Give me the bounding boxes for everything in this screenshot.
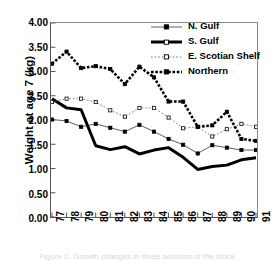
x-tick-label: 77 (55, 200, 66, 222)
data-point (51, 62, 54, 65)
data-point (167, 116, 170, 119)
legend-item-e-scotian-shelf: E. Scotian Shelf (150, 48, 260, 62)
data-point (80, 67, 83, 70)
x-tick-label: 89 (232, 200, 243, 222)
data-point (152, 130, 155, 133)
data-point (94, 100, 97, 103)
data-point (182, 100, 185, 103)
data-point (182, 143, 185, 146)
y-axis-title: Weight at age 7 (kg) (23, 15, 35, 205)
x-tick-label: 81 (114, 200, 125, 222)
x-tick-label: 87 (202, 200, 213, 222)
x-tick-label: 82 (129, 200, 140, 222)
legend-key-icon (150, 64, 183, 76)
data-point (51, 100, 54, 103)
data-point (65, 97, 68, 100)
data-point (51, 118, 54, 121)
data-point (211, 124, 214, 127)
data-point (80, 97, 83, 100)
data-point (109, 109, 112, 112)
data-point (254, 125, 257, 128)
data-point (182, 127, 185, 130)
data-point (65, 50, 68, 53)
data-point (254, 148, 257, 151)
data-point (167, 137, 170, 140)
data-point (225, 110, 228, 113)
x-tick-label: 78 (70, 200, 81, 222)
data-point (225, 128, 228, 131)
data-point (152, 106, 155, 109)
legend-label: N. Gulf (188, 20, 219, 31)
data-point (138, 65, 141, 68)
data-point (240, 122, 243, 125)
x-tick-label: 84 (158, 200, 169, 222)
figure-caption: Figure 2. Growth changes in three sectio… (0, 252, 274, 261)
legend-item-northern: Northern (150, 63, 260, 77)
data-point (94, 122, 97, 125)
y-tick-label: 0.00 (0, 213, 48, 224)
data-point (225, 146, 228, 149)
x-tick-label: 90 (246, 200, 257, 222)
legend-key-icon (150, 19, 183, 31)
data-point (65, 119, 68, 122)
legend-label: Northern (188, 65, 228, 76)
data-point (123, 130, 126, 133)
legend-label: E. Scotian Shelf (188, 50, 260, 61)
data-point (109, 126, 112, 129)
data-point (196, 152, 199, 155)
data-point (138, 106, 141, 109)
data-point (240, 137, 243, 140)
data-point (167, 100, 170, 103)
x-tick-label: 80 (99, 200, 110, 222)
data-point (138, 123, 141, 126)
legend-item-n-gulf: N. Gulf (150, 18, 260, 32)
legend-item-s-gulf: S. Gulf (150, 33, 260, 47)
data-point (240, 148, 243, 151)
x-tick-label: 79 (84, 200, 95, 222)
x-tick-label: 85 (173, 200, 184, 222)
x-tick-label: 91 (261, 200, 272, 222)
data-point (196, 125, 199, 128)
data-point (211, 135, 214, 138)
data-point (254, 139, 257, 142)
data-point (80, 125, 83, 128)
x-tick-label: 86 (187, 200, 198, 222)
figure-weight-at-age-7: Weight at age 7 (kg) 0.000.501.001.502.0… (0, 0, 274, 261)
data-point (123, 115, 126, 118)
legend-label: S. Gulf (188, 35, 219, 46)
data-point (109, 67, 112, 70)
x-tick-label: 88 (217, 200, 228, 222)
data-point (94, 65, 97, 68)
data-point (123, 83, 126, 86)
data-point (211, 144, 214, 147)
legend-key-icon (150, 34, 183, 46)
chart-legend: N. GulfS. GulfE. Scotian ShelfNorthern (150, 18, 260, 78)
x-tick-label: 83 (143, 200, 154, 222)
legend-key-icon (150, 49, 183, 61)
